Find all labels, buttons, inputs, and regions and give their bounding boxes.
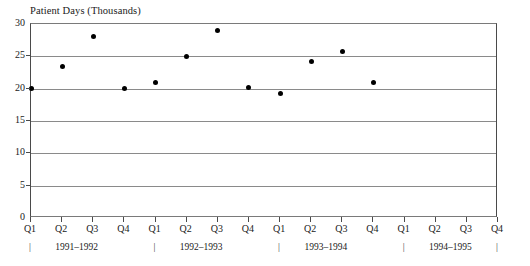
data-point — [371, 80, 376, 85]
year-group-label-2: 1993–1994 — [281, 241, 371, 253]
x-tick-label-1: Q2 — [46, 223, 76, 235]
y-tick-label-25: 25 — [15, 50, 25, 60]
year-separator-0: | — [25, 241, 35, 253]
y-tick-mark-20 — [26, 88, 30, 89]
x-tick-mark-1 — [61, 217, 62, 222]
x-tick-label-10: Q3 — [326, 223, 356, 235]
year-separator-1: | — [150, 241, 160, 253]
x-tick-label-6: Q3 — [202, 223, 232, 235]
x-axis: Q1Q2Q3Q4Q1Q2Q3Q4Q1Q2Q3Q4Q1Q2Q3Q41991–199… — [0, 217, 530, 266]
x-tick-mark-5 — [186, 217, 187, 222]
x-tick-label-4: Q1 — [140, 223, 170, 235]
x-tick-label-8: Q1 — [264, 223, 294, 235]
data-point — [215, 28, 220, 33]
data-point — [278, 91, 283, 96]
y-tick-mark-5 — [26, 185, 30, 186]
x-tick-label-13: Q2 — [420, 223, 450, 235]
data-point — [122, 86, 127, 91]
x-tick-mark-9 — [310, 217, 311, 222]
x-tick-label-7: Q4 — [233, 223, 263, 235]
year-group-label-1: 1992–1993 — [156, 241, 246, 253]
year-group-label-0: 1991–1992 — [32, 241, 122, 253]
x-tick-mark-15 — [497, 217, 498, 222]
gridline-5 — [31, 186, 496, 187]
gridline-10 — [31, 153, 496, 154]
x-tick-label-14: Q3 — [451, 223, 481, 235]
chart-root: Patient Days (Thousands) 302520151050 Q1… — [0, 0, 530, 266]
y-tick-label-5: 5 — [20, 180, 25, 190]
x-tick-mark-13 — [435, 217, 436, 222]
x-tick-mark-2 — [92, 217, 93, 222]
data-point — [153, 80, 158, 85]
year-separator-2: | — [274, 241, 284, 253]
x-tick-label-0: Q1 — [15, 223, 45, 235]
year-separator-3: | — [399, 241, 409, 253]
y-tick-mark-10 — [26, 152, 30, 153]
x-tick-mark-12 — [404, 217, 405, 222]
y-tick-label-30: 30 — [15, 18, 25, 28]
y-tick-mark-15 — [26, 120, 30, 121]
y-tick-mark-25 — [26, 55, 30, 56]
data-point — [184, 54, 189, 59]
x-tick-mark-6 — [217, 217, 218, 222]
x-tick-mark-4 — [155, 217, 156, 222]
x-tick-label-5: Q2 — [171, 223, 201, 235]
x-tick-label-15: Q4 — [482, 223, 512, 235]
x-tick-mark-14 — [466, 217, 467, 222]
x-tick-label-2: Q3 — [77, 223, 107, 235]
x-tick-mark-7 — [248, 217, 249, 222]
x-tick-mark-10 — [341, 217, 342, 222]
x-tick-mark-0 — [30, 217, 31, 222]
x-tick-label-12: Q1 — [389, 223, 419, 235]
y-tick-label-10: 10 — [15, 147, 25, 157]
x-tick-label-11: Q4 — [357, 223, 387, 235]
data-point — [340, 49, 345, 54]
y-tick-label-20: 20 — [15, 83, 25, 93]
x-tick-mark-11 — [372, 217, 373, 222]
gridline-20 — [31, 89, 496, 90]
x-tick-label-3: Q4 — [108, 223, 138, 235]
data-point — [309, 59, 314, 64]
x-tick-label-9: Q2 — [295, 223, 325, 235]
year-separator-end: | — [492, 241, 502, 253]
y-tick-label-15: 15 — [15, 115, 25, 125]
year-group-label-3: 1994–1995 — [405, 241, 495, 253]
plot-area — [30, 23, 497, 217]
gridline-15 — [31, 121, 496, 122]
chart-title: Patient Days (Thousands) — [30, 4, 141, 17]
data-point — [60, 64, 65, 69]
data-point — [91, 34, 96, 39]
x-tick-mark-8 — [279, 217, 280, 222]
x-tick-mark-3 — [123, 217, 124, 222]
gridline-25 — [31, 56, 496, 57]
